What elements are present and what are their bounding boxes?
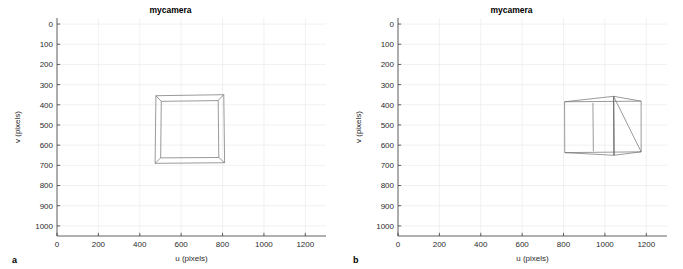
tick-label-y: 300 bbox=[40, 81, 54, 90]
tick-label-y: 500 bbox=[40, 121, 54, 130]
tick-label-x: 400 bbox=[133, 240, 147, 249]
tick-label-x: 200 bbox=[433, 240, 447, 249]
tick-label-y: 700 bbox=[40, 161, 54, 170]
tick-label-y: 100 bbox=[381, 40, 395, 49]
tick-label-y: 200 bbox=[381, 60, 395, 69]
tick-label-y: 1000 bbox=[35, 222, 53, 231]
cube-wireframe-right-face bbox=[614, 96, 642, 155]
tick-marks: 0200400600800100012000100200300400500600… bbox=[35, 20, 315, 249]
figure-panel-b: mycamera 0200400600800100012000100200300… bbox=[341, 0, 682, 269]
tick-label-y: 300 bbox=[381, 81, 395, 90]
cube-wireframe-edge-bottomright bbox=[219, 157, 225, 162]
tick-label-x: 800 bbox=[216, 240, 230, 249]
cube-wireframe-left-face bbox=[565, 96, 614, 155]
tick-label-x: 800 bbox=[557, 240, 571, 249]
axis-label-y: v (pixels) bbox=[13, 111, 22, 143]
cube-wireframe-edge-top-back bbox=[614, 96, 642, 101]
tick-label-x: 0 bbox=[55, 240, 60, 249]
tick-label-y: 1000 bbox=[376, 222, 394, 231]
tick-label-y: 900 bbox=[381, 202, 395, 211]
cube-wireframe-edge-bottomleft bbox=[155, 158, 161, 163]
tick-label-y: 200 bbox=[40, 60, 54, 69]
tick-label-y: 800 bbox=[40, 181, 54, 190]
tick-label-x: 0 bbox=[396, 240, 401, 249]
tick-label-y: 400 bbox=[381, 101, 395, 110]
tick-label-x: 1000 bbox=[255, 240, 273, 249]
tick-label-y: 500 bbox=[381, 121, 395, 130]
tick-label-x: 400 bbox=[474, 240, 488, 249]
cube-wireframe-edge-bottom-front bbox=[565, 152, 641, 153]
tick-label-x: 600 bbox=[515, 240, 529, 249]
cube-wireframe-edge-topleft bbox=[156, 96, 161, 102]
tick-label-y: 0 bbox=[390, 20, 395, 29]
tick-label-x: 1200 bbox=[296, 240, 314, 249]
tick-label-y: 700 bbox=[381, 161, 395, 170]
tick-label-y: 400 bbox=[40, 101, 54, 110]
tick-label-y: 100 bbox=[40, 40, 54, 49]
tick-label-y: 600 bbox=[381, 141, 395, 150]
plot-canvas-b: 0200400600800100012000100200300400500600… bbox=[341, 0, 682, 269]
figure-panel-a: mycamera 0200400600800100012000100200300… bbox=[0, 0, 341, 269]
tick-label-x: 600 bbox=[174, 240, 188, 249]
axes bbox=[398, 18, 667, 236]
cube-wireframe-back-face bbox=[161, 101, 219, 158]
axes bbox=[57, 18, 326, 236]
cube-wireframe-edge-top-front bbox=[565, 101, 642, 102]
tick-label-x: 1200 bbox=[637, 240, 655, 249]
panel-letter-b: b bbox=[353, 255, 359, 265]
tick-label-y: 800 bbox=[381, 181, 395, 190]
tick-label-y: 900 bbox=[40, 202, 54, 211]
gridlines bbox=[57, 18, 326, 236]
gridlines bbox=[398, 18, 667, 236]
tick-label-x: 1000 bbox=[596, 240, 614, 249]
panel-letter-a: a bbox=[12, 255, 17, 265]
axis-label-y: v (pixels) bbox=[354, 111, 363, 143]
plot-canvas-a: 0200400600800100012000100200300400500600… bbox=[0, 0, 341, 269]
axis-label-x: u (pixels) bbox=[516, 254, 549, 263]
cube-wireframe-edge-topright bbox=[218, 95, 224, 101]
tick-label-x: 200 bbox=[92, 240, 106, 249]
cube-wireframe bbox=[565, 96, 642, 155]
tick-label-y: 0 bbox=[49, 20, 54, 29]
axis-label-x: u (pixels) bbox=[175, 254, 208, 263]
tick-label-y: 600 bbox=[40, 141, 54, 150]
